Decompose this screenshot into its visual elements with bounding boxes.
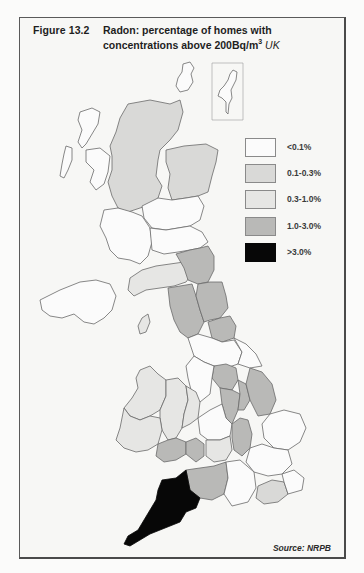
western-isles <box>78 108 100 148</box>
region-gloucestershire <box>206 436 232 462</box>
legend-item: 0.3-1.0% <box>245 190 345 210</box>
shetland-islands <box>218 70 237 114</box>
outer-hebrides-south <box>60 146 72 178</box>
region-glamorgan <box>156 438 186 462</box>
legend-label: 0.3-1.0% <box>287 194 321 204</box>
figure-title: Radon: percentage of homes with concentr… <box>103 24 343 51</box>
legend-label: >3.0% <box>287 247 311 257</box>
region-sussex <box>256 480 288 504</box>
legend-item: 1.0-3.0% <box>245 217 345 237</box>
region-derbyshire <box>212 364 238 390</box>
figure-number: Figure 13.2 <box>33 24 90 36</box>
figure-title-main: Radon: percentage of homes with concentr… <box>103 24 272 51</box>
legend-swatch <box>245 190 276 209</box>
region-lincolnshire <box>246 368 276 416</box>
region-isle-of-man <box>138 314 150 334</box>
legend-item: >3.0% <box>245 243 345 263</box>
legend-label: 1.0-3.0% <box>287 221 321 231</box>
region-gwent <box>186 438 204 462</box>
uk-radon-map <box>20 50 350 550</box>
legend-label: <0.1% <box>287 142 311 152</box>
figure-title-superscript: 3 <box>258 38 262 45</box>
region-skye-coast <box>86 148 110 190</box>
legend-item: 0.1-0.3% <box>245 164 345 184</box>
legend-label: 0.1-0.3% <box>287 168 321 178</box>
source-note: Source: NRPB <box>273 543 331 553</box>
orkney-islands <box>176 62 194 92</box>
region-east-anglia <box>262 410 306 450</box>
legend-swatch <box>245 243 276 262</box>
legend-item: <0.1% <box>245 138 345 158</box>
legend-swatch <box>245 138 276 157</box>
legend-swatch <box>245 217 276 236</box>
legend-swatch <box>245 164 276 183</box>
region-tayside <box>142 196 204 230</box>
region-devon-cornwall <box>124 470 200 546</box>
region-northern-ireland <box>40 280 116 324</box>
region-grampian <box>166 144 218 200</box>
